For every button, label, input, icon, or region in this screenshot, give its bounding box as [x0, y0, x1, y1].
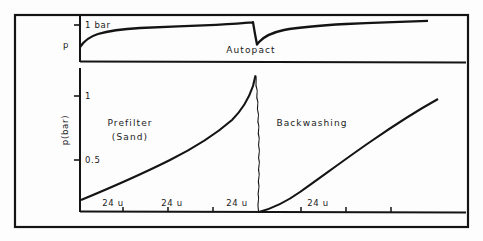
prefilter-sand-annotation: (Sand) — [112, 132, 148, 142]
x-tick-label-2: 24 u — [161, 198, 183, 208]
bottom-panel-tick-label-05: 0.5 — [85, 155, 101, 165]
bottom-panel-tick-label-1: 1 — [85, 91, 91, 101]
x-tick-label-3: 24 u — [226, 198, 248, 208]
backwash-drop-wavy-line — [256, 76, 260, 213]
top-panel-baseline — [80, 62, 466, 63]
prefilter-pressure-ramp — [81, 76, 256, 201]
prefilter-annotation: Prefilter — [107, 118, 152, 128]
autopact-annotation: Autopact — [226, 45, 275, 55]
backwashing-annotation: Backwashing — [276, 118, 347, 128]
top-panel: 1 bar p Autopact — [63, 15, 466, 63]
figure-container: 1 bar p Autopact 1 0.5 p(bar) — [0, 0, 483, 241]
bottom-panel: 1 0.5 p(bar) 24 u 24 u 24 u 24 u Prefil — [60, 68, 466, 213]
x-tick-label-4: 24 u — [307, 198, 329, 208]
figure-canvas: 1 bar p Autopact 1 0.5 p(bar) — [0, 0, 483, 241]
x-tick-label-1: 24 u — [102, 198, 124, 208]
backwashing-pressure-ramp — [259, 99, 438, 212]
bottom-panel-x-axis — [80, 212, 466, 213]
bottom-panel-y-axis-label: p(bar) — [60, 115, 70, 145]
top-panel-y-axis-label: p — [63, 40, 69, 50]
top-panel-tick-label-1bar: 1 bar — [85, 20, 111, 30]
autopact-pressure-curve — [80, 21, 428, 47]
